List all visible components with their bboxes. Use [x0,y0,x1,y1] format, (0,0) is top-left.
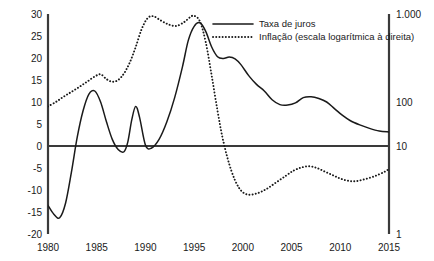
x-tick-label: 1985 [86,242,109,253]
x-tick-label: 1980 [37,242,60,253]
legend-item[interactable]: Inflação (escala logarítmica à direita) [213,31,414,42]
y-tick-label-left: -10 [28,185,43,196]
y-tick-label-right: 1 [396,229,402,240]
y-tick-label-left: 0 [36,141,42,152]
legend-label: Taxa de juros [259,18,316,29]
x-tick-label: 1995 [183,242,206,253]
series-group [48,16,389,219]
legend-item[interactable]: Taxa de juros [213,18,316,29]
axes-group [48,14,389,234]
y-tick-label-right: 100 [396,97,413,108]
y-tick-label-left: -5 [33,163,42,174]
y-tick-label-left: -20 [28,229,43,240]
series-line-interest-rate [48,23,389,219]
y-tick-label-right: 1.000 [396,9,421,20]
legend-label: Inflação (escala logarítmica à direita) [259,31,414,42]
y-tick-label-left: 20 [31,53,43,64]
x-tick-label: 2010 [329,242,352,253]
y-tick-label-left: -15 [28,207,43,218]
line-chart: 302520151050-5-10-15-201.000100101198019… [0,0,434,261]
y-tick-label-left: 5 [36,119,42,130]
x-tick-label: 1990 [134,242,157,253]
y-axis-right-labels: 1.000100101 [396,9,421,240]
x-tick-label: 2015 [378,242,401,253]
y-tick-label-left: 30 [31,9,43,20]
y-tick-label-left: 10 [31,97,43,108]
x-axis-labels: 19801985199019952000200520102015 [37,242,401,253]
x-tick-label: 2005 [280,242,303,253]
chart-container: 302520151050-5-10-15-201.000100101198019… [0,0,434,261]
x-tick-label: 2000 [232,242,255,253]
y-tick-label-left: 15 [31,75,43,86]
legend: Taxa de jurosInflação (escala logarítmic… [213,18,414,42]
y-axis-left-labels: 302520151050-5-10-15-20 [28,9,43,240]
y-tick-label-right: 10 [396,141,408,152]
y-tick-label-left: 25 [31,31,43,42]
